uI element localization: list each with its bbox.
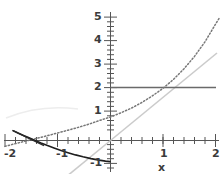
x-tick-label-1: 1 (160, 148, 168, 159)
y-tick-label-2: 2 (94, 81, 102, 92)
series-faint-arc (6, 108, 78, 118)
y-tick-label-4: 4 (94, 34, 102, 45)
x-tick-label-minus-2: -2 (4, 148, 16, 159)
chart-plot-area (0, 0, 222, 174)
chart-canvas: 5 4 3 2 1 -1 -2 -1 1 2 x (0, 0, 222, 174)
series-tangent-line (111, 53, 218, 141)
y-tick-label-3: 3 (94, 58, 102, 69)
x-axis-title: x (158, 162, 165, 173)
x-tick-label-2: 2 (212, 148, 220, 159)
y-tick-label-minus-1: -1 (90, 157, 102, 168)
y-tick-label-1: 1 (94, 105, 102, 116)
y-tick-label-5: 5 (94, 11, 102, 22)
x-tick-label-minus-1: -1 (56, 148, 68, 159)
